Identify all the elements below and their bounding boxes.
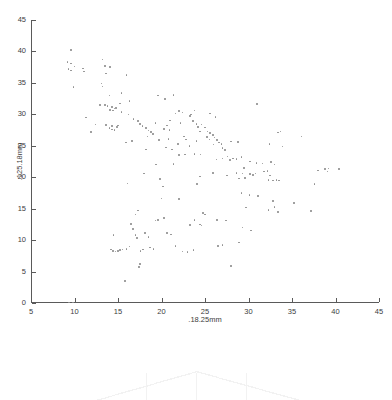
x-tick — [31, 298, 32, 302]
scatter-point — [209, 113, 211, 115]
scatter-point — [135, 234, 137, 236]
scatter-point — [67, 61, 69, 63]
scatter-point — [104, 65, 106, 67]
y-tick — [32, 146, 36, 147]
scatter-point — [137, 120, 139, 122]
scatter-point — [216, 139, 218, 141]
scatter-point — [109, 127, 111, 129]
scatter-point — [124, 280, 126, 282]
scatter-point — [101, 83, 103, 85]
y-tick-label: 5 — [22, 268, 26, 276]
scatter-point — [111, 129, 113, 131]
x-axis-line — [31, 302, 379, 303]
scatter-point — [236, 158, 238, 160]
scatter-point — [230, 265, 232, 267]
scatter-point — [112, 250, 114, 252]
scatter-point — [268, 209, 270, 211]
scatter-point — [249, 194, 251, 196]
scatter-point — [83, 71, 85, 73]
scatter-point — [268, 179, 270, 181]
scatter-point — [164, 98, 166, 100]
scatter-point — [182, 251, 184, 253]
scatter-point — [115, 251, 117, 253]
scatter-point — [144, 232, 146, 234]
scatter-point — [184, 154, 186, 156]
scatter-point — [159, 178, 161, 180]
scatter-point — [149, 247, 151, 249]
scatter-point — [226, 175, 228, 177]
scatter-point — [166, 232, 168, 234]
scatter-point — [207, 131, 209, 133]
faint-plot-gridline — [196, 373, 197, 400]
x-axis-label: .18.25mm — [31, 315, 379, 324]
x-tick — [292, 298, 293, 302]
scatter-point — [109, 109, 111, 111]
scatter-point — [269, 175, 271, 177]
scatter-point — [122, 249, 124, 251]
scatter-point — [68, 68, 70, 70]
scatter-point — [221, 143, 223, 145]
scatter-point — [314, 183, 316, 185]
scatter-point — [158, 139, 160, 141]
scatter-point — [274, 206, 276, 208]
scatter-point — [133, 118, 135, 120]
scatter-point — [104, 104, 106, 106]
scatter-point — [166, 125, 168, 127]
scatter-point — [216, 159, 218, 161]
scatter-point — [256, 162, 258, 164]
scatter-point — [267, 170, 269, 172]
scatter-point — [126, 74, 128, 76]
scatter-point — [274, 164, 276, 166]
scatter-point — [196, 183, 198, 185]
scatter-point — [127, 183, 129, 185]
scatter-point — [121, 111, 123, 113]
scatter-point — [175, 113, 177, 115]
scatter-point — [249, 161, 251, 163]
scatter-point — [113, 234, 115, 236]
scatter-point — [162, 186, 164, 188]
scatter-point — [282, 146, 284, 148]
scatter-point — [196, 123, 198, 125]
y-tick-label: 45 — [18, 16, 26, 24]
scatter-point — [212, 134, 214, 136]
scatter-point — [142, 125, 144, 127]
scatter-point — [170, 234, 172, 236]
scatter-point — [192, 120, 194, 122]
scatter-point — [85, 117, 87, 119]
scatter-point — [121, 92, 123, 94]
y-tick-label: 10 — [18, 236, 26, 244]
scatter-point — [168, 138, 170, 140]
scatter-point — [212, 172, 214, 174]
scatter-point — [222, 147, 224, 149]
scatter-point — [148, 236, 150, 238]
scatter-point — [102, 59, 104, 61]
scatter-point — [204, 127, 206, 129]
y-tick — [32, 114, 36, 115]
scatter-point — [169, 120, 171, 122]
scatter-point — [155, 164, 157, 166]
scatter-point — [187, 251, 189, 253]
scatter-point — [245, 207, 247, 209]
scatter-point — [189, 115, 191, 117]
scatter-point — [222, 158, 224, 160]
scatter-point — [155, 122, 157, 124]
y-tick — [32, 51, 36, 52]
scatter-point — [263, 171, 265, 173]
scatter-point — [107, 105, 109, 107]
scatter-point — [119, 249, 121, 251]
scatter-point — [131, 140, 133, 142]
scatter-point — [193, 249, 195, 251]
scatter-point — [277, 132, 279, 134]
scatter-point — [199, 176, 201, 178]
scatter-point — [117, 250, 119, 252]
scatter-point — [238, 242, 240, 244]
scatter-point — [112, 110, 114, 112]
y-tick-label: 15 — [18, 205, 26, 213]
x-tick — [162, 298, 163, 302]
scatter-point — [249, 173, 251, 175]
scatter-point — [269, 143, 271, 145]
y-tick — [32, 303, 36, 304]
scatter-point — [90, 131, 92, 133]
scatter-point — [272, 200, 274, 202]
figure-canvas: .125.18mm 051015202530354045 51015202530… — [0, 0, 392, 400]
